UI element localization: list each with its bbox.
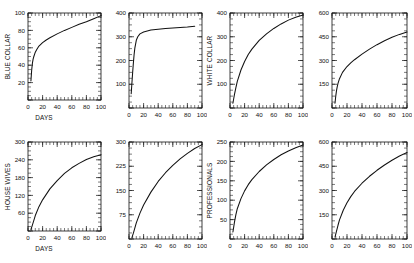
minor-ticks [230,13,303,108]
y-axis-title: PROFESSIONALS [206,163,213,219]
plot-frame [28,13,101,100]
x-tick-label: 0 [228,242,232,249]
y-tick-label: 100 [116,80,127,87]
x-tick-label: 100 [402,111,412,118]
x-tick-label: 0 [330,111,334,118]
y-tick-label: 50 [220,216,227,223]
x-tick-label: 0 [26,234,30,241]
x-tick-label: 60 [270,242,277,249]
y-tick-label: 450 [319,162,330,169]
y-tick-label: 300 [116,138,127,145]
y-tick-label: 180 [15,174,26,181]
y-tick-label: 200 [116,57,127,64]
panel-row1-col2: 020406080100100200300400 [103,4,207,128]
panel-white-collar: 020406080100100200300400WHITE COLLAR [204,4,308,128]
y-tick-label: 150 [217,177,228,184]
x-tick-label: 80 [285,242,292,249]
y-tick-label: 120 [15,192,26,199]
x-tick-label: 60 [169,111,176,118]
minor-ticks [230,142,303,239]
y-tick-label: 240 [15,156,26,163]
x-tick-label: 60 [374,111,381,118]
x-tick-label: 60 [68,234,75,241]
y-tick-label: 450 [319,33,330,40]
x-tick-label: 20 [344,111,351,118]
x-tick-label: 0 [127,111,131,118]
x-tick-label: 40 [359,111,366,118]
y-tick-label: 40 [18,61,25,68]
x-tick-label: 80 [83,103,90,110]
x-tick-label: 20 [39,103,46,110]
x-tick-label: 20 [241,242,248,249]
plot-frame [332,142,407,239]
y-tick-label: 100 [15,9,26,16]
minor-ticks [332,13,407,108]
data-curve [233,145,303,232]
y-tick-label: 600 [319,9,330,16]
x-tick-label: 40 [155,242,162,249]
panel-professionals: 02040608010050100150200250PROFESSIONALS [204,133,308,259]
panel-row1-col4: 020406080100150300450600 [306,4,412,128]
x-tick-label: 0 [127,242,131,249]
x-axis-title: DAYS [35,114,53,121]
y-tick-label: 600 [319,138,330,145]
y-tick-label: 300 [319,187,330,194]
minor-ticks [129,13,202,108]
x-tick-label: 40 [359,242,366,249]
panel-house-wives: 02040608010060120180240300HOUSE WIVESDAY… [2,133,106,259]
y-tick-label: 250 [217,138,228,145]
x-tick-label: 40 [256,111,263,118]
y-axis-title: WHITE COLLAR [206,35,213,85]
y-tick-label: 300 [15,138,26,145]
x-tick-label: 40 [256,242,263,249]
x-tick-label: 60 [68,103,75,110]
x-tick-label: 40 [54,234,61,241]
plot-frame [28,142,101,231]
data-curve [335,153,407,238]
y-axis-title: BLUE COLLAR [4,33,11,79]
panel-blue-collar: 02040608010020406080100BLUE COLLARDAYS [2,4,106,128]
data-curve [31,155,101,230]
plot-frame [129,13,202,108]
data-curve [335,32,407,103]
y-tick-label: 60 [18,44,25,51]
y-tick-label: 300 [217,33,228,40]
major-ticks: 020406080100150300450600 [319,138,412,249]
x-tick-label: 0 [26,103,30,110]
x-tick-label: 0 [228,111,232,118]
minor-ticks [28,13,101,100]
panel-row2-col4: 020406080100150300450600 [306,133,412,259]
x-tick-label: 60 [169,242,176,249]
x-tick-label: 80 [184,111,191,118]
x-tick-label: 60 [270,111,277,118]
x-tick-label: 20 [241,111,248,118]
minor-ticks [28,142,101,231]
x-tick-label: 80 [83,234,90,241]
y-axis-title: HOUSE WIVES [4,163,11,210]
small-multiples-figure: 02040608010020406080100BLUE COLLARDAYS02… [0,0,414,263]
y-tick-label: 150 [319,80,330,87]
y-tick-label: 400 [116,9,127,16]
plot-frame [230,13,303,108]
data-curve [31,16,101,81]
x-tick-label: 0 [330,242,334,249]
x-tick-label: 40 [54,103,61,110]
y-tick-label: 200 [217,158,228,165]
data-curve [132,145,202,238]
x-tick-label: 20 [140,111,147,118]
x-tick-label: 20 [344,242,351,249]
y-tick-label: 200 [217,57,228,64]
y-tick-label: 300 [116,33,127,40]
y-tick-label: 80 [18,27,25,34]
y-tick-label: 100 [217,80,228,87]
plot-frame [129,142,202,239]
minor-ticks [129,142,202,239]
y-tick-label: 150 [319,211,330,218]
x-tick-label: 80 [184,242,191,249]
y-tick-label: 20 [18,79,25,86]
x-tick-label: 40 [155,111,162,118]
major-ticks: 020406080100150300450600 [319,9,412,118]
plot-frame [332,13,407,108]
panel-row2-col2: 02040608010075150225300 [103,133,207,259]
plot-frame [230,142,303,239]
